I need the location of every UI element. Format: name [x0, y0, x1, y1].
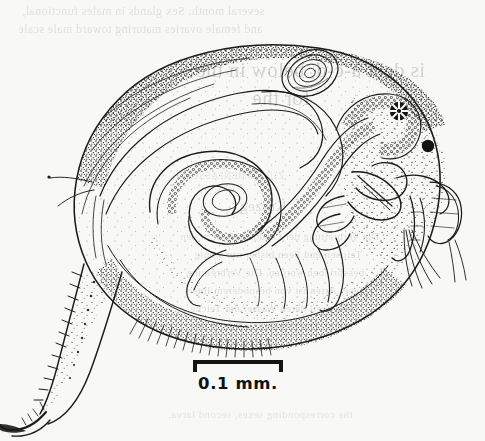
scale-bar — [193, 360, 283, 372]
scale-bar-tick-right — [279, 360, 283, 372]
part-ocellus — [422, 140, 434, 152]
scale-bar-tick-left — [193, 360, 197, 372]
scanned-page: several month. Sex glands in males funct… — [0, 0, 485, 441]
scale-bar-rule — [193, 360, 283, 364]
part-carapace — [60, 36, 460, 370]
part-compound-eye — [390, 102, 408, 120]
part-postabdomen — [34, 264, 122, 424]
scale-bar-label: 0.1 mm. — [150, 374, 326, 393]
part-abdominal-claw — [0, 402, 50, 436]
